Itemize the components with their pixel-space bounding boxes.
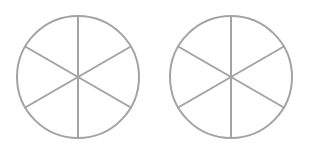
sector-divider-line (78, 47, 131, 78)
sector-divider-line (25, 77, 78, 108)
sector-divider-line (78, 77, 131, 108)
sector-divider-line (25, 47, 78, 78)
diagram-canvas (0, 0, 309, 149)
fraction-circles-diagram (0, 0, 309, 149)
sector-divider-line (178, 77, 231, 108)
left-circle (17, 16, 139, 138)
sector-divider-line (178, 47, 231, 78)
sector-divider-line (231, 77, 284, 108)
right-circle (170, 16, 292, 138)
sector-divider-line (231, 47, 284, 78)
